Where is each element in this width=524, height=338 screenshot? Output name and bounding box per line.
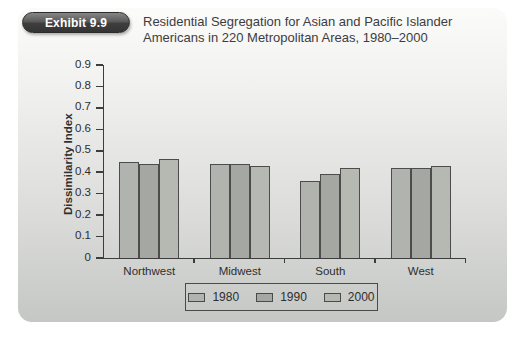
y-tick-label: 0: [58, 251, 91, 263]
y-tick-mark: [96, 236, 103, 238]
figure-title-line1: Residential Segregation for Asian and Pa…: [143, 14, 503, 30]
bar-west-1980: [391, 168, 411, 258]
y-tick-label: 0.2: [58, 208, 91, 220]
bar-northwest-1980: [119, 162, 139, 259]
x-tick-mark: [465, 258, 467, 263]
legend-label-1990: 1990: [280, 290, 307, 304]
legend-entry-2000: 2000: [324, 290, 375, 304]
y-tick-mark: [96, 64, 103, 66]
y-tick-mark: [96, 193, 103, 195]
y-tick-label: 0.6: [58, 122, 91, 134]
y-tick-label: 0.3: [58, 186, 91, 198]
y-tick-label: 0.9: [58, 58, 91, 70]
plot-area: 0.90.80.70.60.50.40.30.20.10NorthwestMid…: [103, 65, 466, 259]
y-tick-mark: [96, 150, 103, 152]
legend-swatch-1990: [256, 293, 273, 302]
figure-title-line2: Americans in 220 Metropolitan Areas, 198…: [143, 30, 503, 46]
y-tick-mark: [96, 107, 103, 109]
y-tick-label: 0.7: [58, 100, 91, 112]
bar-west-2000: [431, 166, 451, 258]
y-tick-label: 0.4: [58, 165, 91, 177]
y-tick-mark: [96, 214, 103, 216]
bar-midwest-1980: [210, 164, 230, 258]
x-tick-mark: [284, 258, 286, 263]
y-tick-label: 0.1: [58, 229, 91, 241]
bar-midwest-2000: [250, 166, 270, 258]
category-label-midwest: Midwest: [195, 265, 286, 279]
category-label-west: West: [376, 265, 467, 279]
legend-swatch-1980: [188, 293, 205, 302]
y-tick-mark: [96, 171, 103, 173]
bar-midwest-1990: [230, 164, 250, 258]
bar-west-1990: [411, 168, 431, 258]
bar-northwest-1990: [139, 164, 159, 258]
bar-northwest-2000: [159, 159, 179, 258]
x-tick-mark: [193, 258, 195, 263]
y-tick-mark: [96, 86, 103, 88]
exhibit-figure: Exhibit 9.9 Residential Segregation for …: [0, 0, 524, 338]
exhibit-badge-label: Exhibit 9.9: [45, 16, 107, 30]
bar-south-1990: [320, 174, 340, 258]
legend-label-2000: 2000: [348, 290, 375, 304]
x-tick-mark: [374, 258, 376, 263]
bar-south-2000: [340, 168, 360, 258]
legend-entry-1980: 1980: [188, 290, 239, 304]
category-label-northwest: Northwest: [104, 265, 195, 279]
bar-south-1980: [300, 181, 320, 258]
figure-title: Residential Segregation for Asian and Pa…: [143, 14, 503, 46]
legend: 198019902000: [185, 283, 378, 311]
legend-swatch-2000: [324, 293, 341, 302]
legend-label-1980: 1980: [212, 290, 239, 304]
exhibit-badge: Exhibit 9.9: [22, 12, 130, 33]
category-label-south: South: [285, 265, 376, 279]
y-tick-label: 0.8: [58, 79, 91, 91]
y-tick-mark: [96, 257, 103, 259]
y-tick-label: 0.5: [58, 143, 91, 155]
legend-entry-1990: 1990: [256, 290, 307, 304]
y-tick-mark: [96, 129, 103, 131]
